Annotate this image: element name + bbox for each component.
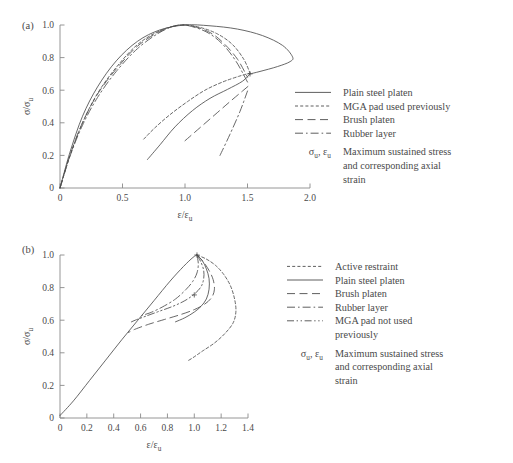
legend-note-line: and corresponding axial — [335, 361, 433, 372]
y-tick-label: 0.6 — [42, 86, 54, 96]
legend-note-symbols: σu, εu — [309, 146, 332, 160]
legend-label: Rubber layer — [335, 302, 389, 313]
x-tick-label: 1.0 — [188, 423, 200, 433]
y-tick-label: 0.4 — [42, 348, 54, 358]
data-curve — [128, 255, 214, 332]
legend-label: MGA pad used previously — [343, 101, 451, 112]
legend-note-line: and corresponding axial — [343, 160, 441, 171]
data-curve — [144, 73, 250, 139]
legend-label-continuation: previously — [335, 329, 379, 340]
x-tick-label: 1.2 — [215, 423, 227, 433]
y-tick-label: 0.2 — [42, 381, 54, 391]
y-tick-label: 0.8 — [42, 53, 54, 63]
x-tick-label: 0.5 — [117, 193, 129, 203]
chart-a-svg: 00.51.01.52.000.20.40.60.81.0ε/εuσ/σuPla… — [0, 8, 513, 231]
axis-lines — [60, 25, 310, 188]
x-tick-label: 1.5 — [242, 193, 254, 203]
data-curve — [220, 91, 248, 155]
x-axis-title: ε/εu — [147, 439, 162, 453]
legend-note-line: strain — [343, 174, 366, 185]
x-tick-label: 0 — [58, 423, 63, 433]
x-tick-label: 2.0 — [304, 193, 316, 203]
data-curve — [185, 84, 251, 141]
y-tick-label: 0.8 — [42, 283, 54, 293]
chart-b-svg: 00.20.40.60.81.01.21.400.20.40.60.81.0ε/… — [0, 238, 513, 461]
legend-note-line: strain — [335, 375, 358, 386]
legend-label: Active restraint — [335, 261, 398, 272]
legend-label: Rubber layer — [343, 128, 397, 139]
figure-container: (a) 00.51.01.52.000.20.40.60.81.0ε/εuσ/σ… — [0, 0, 513, 463]
data-curve — [142, 255, 198, 315]
data-curve — [60, 255, 197, 416]
legend-note-line: Maximum sustained stress — [335, 348, 443, 359]
convergence-marker — [192, 292, 197, 297]
y-tick-label: 0.4 — [42, 118, 54, 128]
y-tick-label: 0 — [49, 413, 54, 423]
x-tick-label: 1.0 — [179, 193, 191, 203]
legend-label: Brush platen — [343, 114, 395, 125]
data-curve — [60, 25, 248, 188]
data-curve — [175, 255, 209, 322]
chart-panel-b: (b) 00.20.40.60.81.01.21.400.20.40.60.81… — [0, 238, 513, 461]
y-tick-label: 0.2 — [42, 151, 54, 161]
data-curve — [60, 25, 250, 188]
data-curve — [60, 25, 248, 188]
legend-label: MGA pad not used — [335, 315, 412, 326]
panel-a-label: (a) — [22, 20, 34, 31]
x-tick-label: 1.4 — [242, 423, 254, 433]
x-tick-label: 0.2 — [81, 423, 93, 433]
legend-label: Plain steel platen — [335, 275, 405, 286]
y-axis-title: σ/σu — [21, 328, 35, 346]
axis-lines — [60, 255, 248, 418]
x-axis-title: ε/εu — [178, 209, 193, 223]
legend-label: Brush platen — [335, 288, 387, 299]
y-tick-label: 1.0 — [42, 250, 54, 260]
data-curve — [148, 74, 251, 160]
x-tick-label: 0 — [58, 193, 63, 203]
x-tick-label: 0.8 — [161, 423, 173, 433]
x-tick-label: 0.4 — [108, 423, 120, 433]
legend-note-symbols: σu, εu — [301, 348, 324, 362]
data-curve — [60, 25, 293, 188]
y-tick-label: 0 — [49, 183, 54, 193]
y-tick-label: 1.0 — [42, 20, 54, 30]
y-axis-title: σ/σu — [21, 98, 35, 116]
panel-b-label: (b) — [22, 244, 34, 255]
legend-label: Plain steel platen — [343, 87, 413, 98]
y-tick-label: 0.6 — [42, 316, 54, 326]
data-curve — [188, 255, 236, 361]
legend-note-line: Maximum sustained stress — [343, 146, 451, 157]
chart-panel-a: (a) 00.51.01.52.000.20.40.60.81.0ε/εuσ/σ… — [0, 8, 513, 231]
x-tick-label: 0.6 — [135, 423, 147, 433]
